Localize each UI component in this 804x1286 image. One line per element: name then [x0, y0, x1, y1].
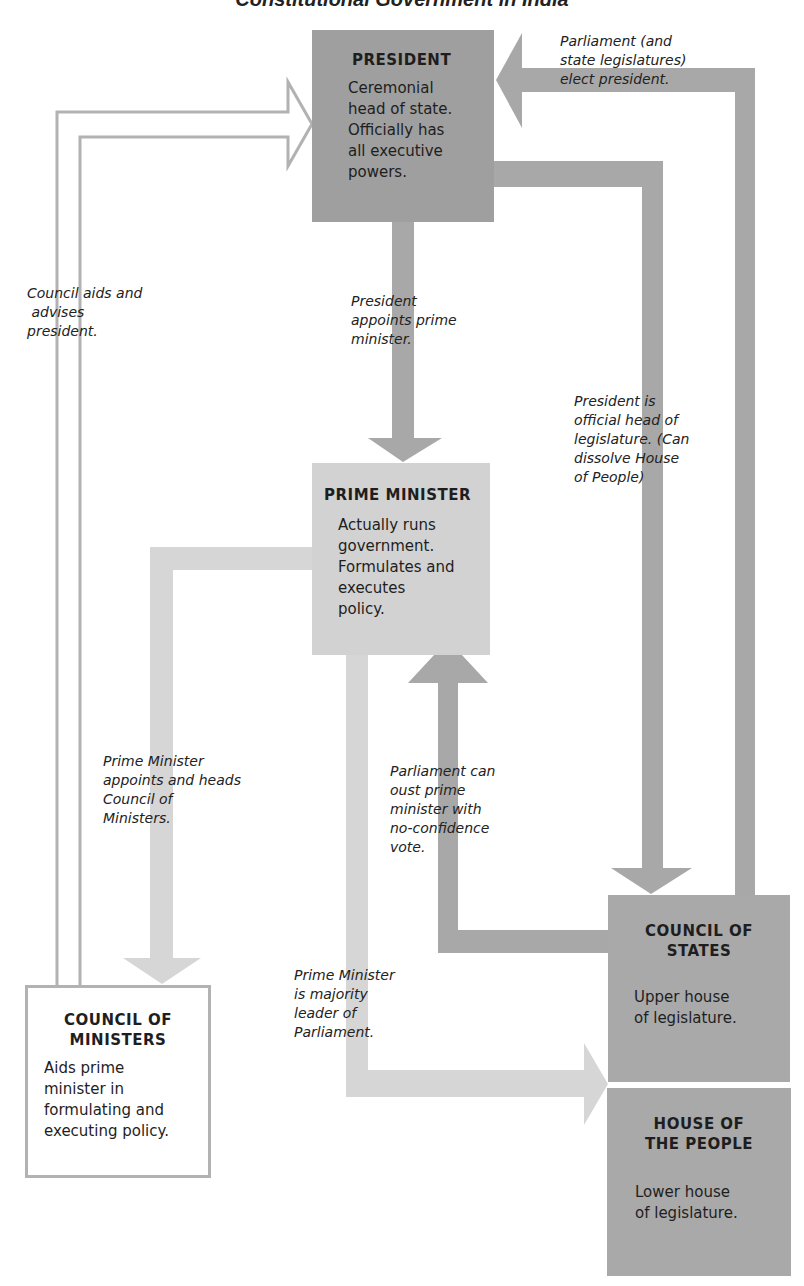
council-of-states-heading: COUNCIL OF STATES [614, 921, 784, 961]
pm-majority-leader-arrow [346, 655, 608, 1125]
council-of-states-box: COUNCIL OF STATES Upper house of legisla… [608, 895, 790, 1082]
note-pm-majority-leader: Prime Minister is majority leader of Par… [294, 966, 395, 1042]
note-president-appoints: President appoints prime minister. [351, 292, 457, 349]
prime-minister-heading: PRIME MINISTER [324, 485, 484, 505]
note-pm-appoints-council: Prime Minister appoints and heads Counci… [103, 752, 241, 828]
house-of-people-description: Lower house of legislature. [613, 1182, 785, 1224]
council-of-states-description: Upper house of legislature. [614, 987, 784, 1029]
council-of-ministers-description: Aids prime minister in formulating and e… [44, 1058, 204, 1142]
president-description: Ceremonial head of state. Officially has… [348, 78, 484, 183]
house-of-people-heading: HOUSE OF THE PEOPLE [613, 1114, 785, 1154]
council-of-ministers-heading: COUNCIL OF MINISTERS [44, 1010, 204, 1050]
prime-minister-box: PRIME MINISTER Actually runs government.… [312, 463, 490, 655]
council-advises-arrow [57, 82, 312, 985]
president-box: PRESIDENT Ceremonial head of state. Offi… [312, 30, 494, 222]
council-of-ministers-box: COUNCIL OF MINISTERS Aids prime minister… [25, 985, 211, 1178]
note-president-head-legislature: President is official head of legislatur… [574, 392, 689, 487]
note-parliament-elects: Parliament (and state legislatures) elec… [560, 32, 686, 89]
prime-minister-description: Actually runs government. Formulates and… [324, 515, 484, 620]
house-of-people-box: HOUSE OF THE PEOPLE Lower house of legis… [607, 1088, 791, 1276]
president-heads-legislature-arrow [494, 161, 692, 894]
note-parliament-oust: Parliament can oust prime minister with … [390, 762, 495, 857]
president-heading: PRESIDENT [352, 50, 484, 70]
note-council-aids: Council aids and advises president. [27, 284, 142, 341]
